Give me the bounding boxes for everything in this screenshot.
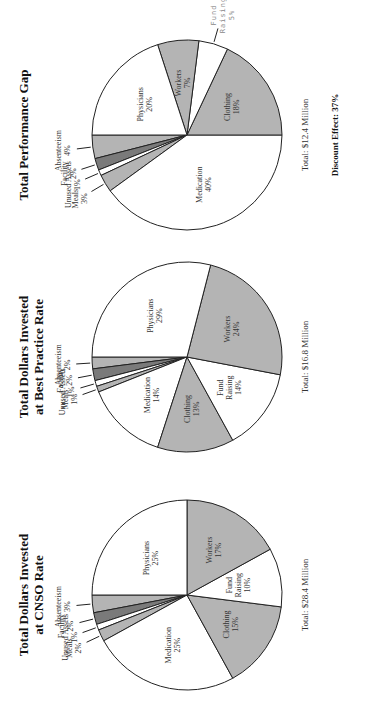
leader-line: [76, 363, 90, 364]
total-label: Total: $12.4 Million: [300, 15, 310, 255]
pie-chart: Absenteeism3%Facility2%Unused Assets1%Me…: [0, 475, 372, 715]
leader-line: [91, 184, 103, 191]
leader-line: [83, 628, 96, 633]
slice-label: Meals3%: [71, 189, 89, 209]
best-practice-chart: Total Dollars Invested at Best Practice …: [0, 237, 372, 477]
leader-line: [77, 147, 91, 149]
pie-chart: Absenteeism4%Facility2%Unused Assets1%Me…: [0, 15, 372, 255]
total-label: Total: $16.8 Million: [300, 237, 310, 477]
pie-chart: Absenteeism2%Facility2%Unused Assets1%Me…: [0, 237, 372, 477]
cnso-chart: Total Dollars Invested at CNSO Rate Abse…: [0, 475, 372, 715]
leader-line: [83, 390, 96, 395]
chart-page: Total Dollars Invested at CNSO Rate Abse…: [0, 0, 372, 724]
performance-gap-chart: Total Performance Gap Absenteeism4%Facil…: [0, 15, 372, 255]
leader-line: [85, 174, 98, 180]
leader-line: [214, 28, 218, 41]
discount-effect-label: Discount Effect: 37%: [330, 15, 340, 255]
leader-line: [78, 375, 92, 378]
leader-line: [76, 604, 90, 605]
leader-line: [79, 619, 93, 622]
leader-line: [81, 165, 94, 169]
slice-label: FundRaising5%: [210, 0, 236, 33]
leader-line: [80, 384, 93, 388]
leader-line: [87, 636, 100, 642]
pie-slice-physicians: [92, 500, 187, 595]
total-label: Total: $28.4 Million: [300, 475, 310, 715]
slice-label: Meals2%: [65, 638, 83, 658]
